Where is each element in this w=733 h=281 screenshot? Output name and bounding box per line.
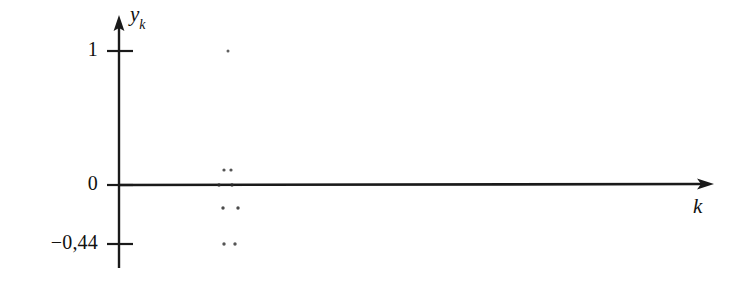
data-point [217,183,220,186]
data-point [230,183,233,186]
y-axis-label: yk [130,2,146,30]
x-axis-label: k [693,194,702,219]
y-axis-label-base: y [130,2,139,26]
data-point [229,168,232,171]
data-point [222,242,225,245]
x-axis-line [119,184,705,185]
data-point [233,242,236,245]
data-point [221,206,224,209]
data-point [236,206,239,209]
data-point [227,50,230,53]
data-point [222,168,225,171]
y-tick-label-1: 1 [48,38,98,61]
y-tick-label-minus-044: −0,44 [8,231,98,254]
data-point-group [217,50,239,246]
y-axis-label-subscript: k [139,17,145,32]
y-tick-label-0: 0 [48,172,98,195]
figure-canvas: 1 0 −0,44 yk k [0,0,733,281]
plot-svg [0,0,733,281]
